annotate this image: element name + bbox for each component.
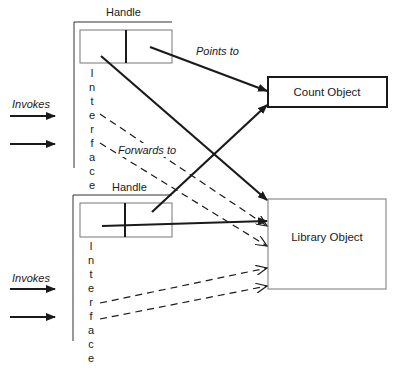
interface-letter: n — [88, 254, 94, 266]
invokes-label: Invokes — [12, 98, 50, 110]
handle-library-diagram: Handle I n t e r f a c e Invokes Handle … — [0, 0, 395, 371]
points-to-label: Points to — [196, 45, 239, 57]
interface-letter: f — [89, 310, 93, 322]
interface-letter: n — [89, 81, 95, 93]
pointer-arrow — [102, 221, 267, 226]
interface-letter: I — [89, 240, 92, 252]
interface-letter: c — [89, 165, 95, 177]
interface-letters: I n t e r f a c e — [88, 240, 95, 364]
interface-letter: r — [90, 123, 94, 135]
interface-letter: a — [88, 324, 95, 336]
interface-letter: t — [90, 95, 93, 107]
forwards-arrow — [100, 286, 267, 319]
forwards-arrow — [100, 268, 267, 303]
interface-letter: a — [89, 151, 96, 163]
library-object-box — [268, 199, 386, 289]
handle-group-1: Handle I n t e r f a c e Invokes — [10, 6, 172, 191]
interface-letter: e — [88, 282, 94, 294]
interface-letter: t — [89, 268, 92, 280]
handle-group-2: Handle I n t e r f a c e Invokes — [10, 181, 172, 364]
interface-letter: I — [90, 67, 93, 79]
handle-label: Handle — [106, 6, 141, 18]
interface-letters: I n t e r f a c e — [89, 67, 96, 191]
invokes-label: Invokes — [12, 272, 50, 284]
handle-label: Handle — [112, 181, 147, 193]
pointer-arrow — [152, 105, 267, 212]
forwards-to-label: Forwards to — [118, 144, 176, 156]
interface-bracket — [73, 195, 172, 341]
interface-letter: r — [89, 296, 93, 308]
interface-letter: e — [89, 109, 95, 121]
interface-letter: c — [88, 338, 94, 350]
library-object: Library Object — [268, 199, 386, 289]
interface-letter: f — [90, 137, 94, 149]
interface-letter: e — [89, 179, 95, 191]
library-object-label: Library Object — [291, 231, 363, 243]
count-object: Count Object — [268, 77, 387, 107]
interface-letter: e — [88, 352, 94, 364]
count-object-label: Count Object — [293, 86, 361, 98]
